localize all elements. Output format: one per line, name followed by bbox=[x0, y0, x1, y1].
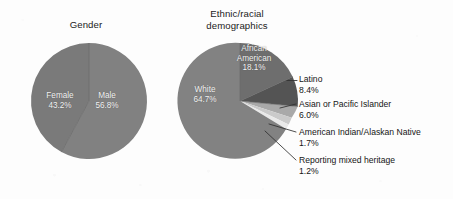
callout-latino: Latino 8.4% bbox=[299, 74, 449, 95]
pie-label-male: Male 56.8% bbox=[84, 91, 130, 110]
leader-line-asian-pacific bbox=[280, 104, 296, 108]
callout-american-indian-alaskan-native: American Indian/Alaskan Native 1.7% bbox=[299, 127, 451, 148]
callout-asian-pacific-islander: Asian or Pacific Islander 6.0% bbox=[299, 99, 449, 120]
leader-line-mixed-heritage bbox=[265, 131, 296, 160]
pie-label-white: White 64.7% bbox=[183, 85, 227, 104]
demographics-figure: Gender Female 43.2% Male 56.8% Ethnic/ra… bbox=[0, 0, 453, 199]
pie-label-female: Female 43.2% bbox=[34, 91, 86, 110]
pie-label-african-american: African American 18.1% bbox=[225, 44, 283, 73]
leader-line-american-indian bbox=[269, 124, 296, 132]
callout-reporting-mixed-heritage: Reporting mixed heritage 1.2% bbox=[299, 155, 449, 176]
